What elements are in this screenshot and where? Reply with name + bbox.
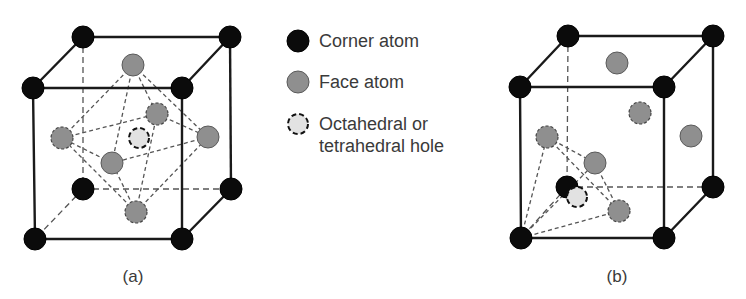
face-atom-front (584, 152, 606, 174)
corner-atom-icon (287, 30, 309, 52)
octahedral-hole (129, 128, 149, 148)
panel-a-label: (a) (123, 267, 144, 286)
corner-atom (220, 178, 242, 200)
corner-atom (702, 176, 724, 198)
panel-b-cube (509, 25, 724, 249)
legend-label: Face atom (319, 72, 404, 92)
corner-atom (509, 76, 531, 98)
face-atom-left (536, 126, 558, 148)
corner-atom (171, 228, 193, 250)
face-atom-left (51, 127, 73, 149)
corner-atom (653, 227, 675, 249)
corner-atom (653, 76, 675, 98)
legend: Corner atom Face atom Octahedral or tetr… (287, 30, 444, 156)
face-atom-bottom (125, 201, 147, 223)
legend-label-line2: tetrahedral hole (319, 136, 444, 156)
panel-b-label: (b) (607, 267, 628, 286)
corner-atom (219, 26, 241, 48)
fcc-holes-diagram: (a) Corner atom Face atom Octahedral or … (0, 0, 746, 299)
legend-label: Corner atom (319, 31, 419, 51)
corner-atom (557, 25, 579, 47)
corner-atom (72, 26, 94, 48)
face-atom-right (197, 126, 219, 148)
face-atom-back (629, 102, 651, 124)
corner-atom (510, 227, 532, 249)
legend-label-line1: Octahedral or (319, 114, 428, 134)
face-atom-icon (287, 71, 309, 93)
legend-item-corner: Corner atom (287, 30, 419, 52)
face-atom-top (606, 52, 628, 74)
corner-atom (72, 178, 94, 200)
hidden-edge (567, 36, 568, 187)
tetrahedral-hole (567, 187, 587, 207)
legend-item-face: Face atom (287, 71, 404, 93)
face-atom-front (101, 152, 123, 174)
face-atom-right (680, 125, 702, 147)
corner-atom (171, 77, 193, 99)
corner-atom (702, 25, 724, 47)
corner-atom (22, 77, 44, 99)
face-atom-back (146, 103, 168, 125)
panel-a-cube (22, 26, 242, 250)
legend-item-hole: Octahedral or tetrahedral hole (288, 114, 444, 156)
corner-atom (24, 228, 46, 250)
face-atom-top (122, 54, 144, 76)
face-atom-bottom (608, 200, 630, 222)
hole-icon (288, 114, 308, 134)
